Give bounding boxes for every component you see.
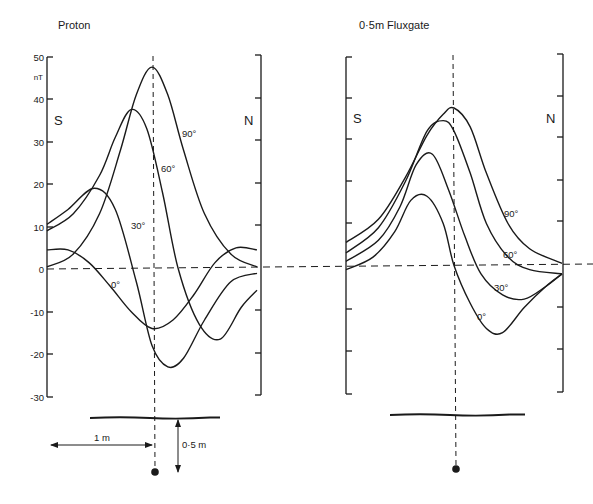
fluxgate-panel: 0·5m Fluxgate S N 90 xyxy=(346,19,563,473)
curve-label-60: 60° xyxy=(503,249,518,260)
fluxgate-ground-surface xyxy=(390,414,525,415)
tick-label: 30 xyxy=(33,137,44,148)
figure-canvas: Proton 50 nT 40 30 20 10 0 -10 -20 -30 xyxy=(0,0,593,504)
fluxgate-title: 0·5m Fluxgate xyxy=(359,19,429,31)
curve-label-60: 60° xyxy=(161,163,176,174)
proton-right-axis xyxy=(255,55,261,395)
tick-label: -30 xyxy=(30,392,44,403)
curve-30deg xyxy=(47,188,257,367)
tick-label: -10 xyxy=(30,307,44,318)
curve-label-0: 0° xyxy=(477,311,486,322)
north-label: N xyxy=(244,113,253,128)
proton-curves xyxy=(47,67,257,367)
fluxgate-source-marker xyxy=(452,465,460,473)
proton-y-tick-labels: 50 nT 40 30 20 10 0 -10 -20 -30 xyxy=(30,52,44,403)
tick-label: 20 xyxy=(33,179,44,190)
south-label: S xyxy=(353,111,362,126)
curve-label-90: 90° xyxy=(504,208,519,219)
curve-label-30: 30° xyxy=(494,282,509,293)
tick-label: 50 xyxy=(33,52,44,63)
curve-label-30: 30° xyxy=(131,220,146,231)
south-label: S xyxy=(54,113,63,128)
zero-baseline xyxy=(47,264,593,269)
fluxgate-centre-line xyxy=(453,55,456,466)
tick-label: 40 xyxy=(33,94,44,105)
tick-label: -20 xyxy=(30,349,44,360)
curve-60deg xyxy=(47,109,257,339)
proton-panel: Proton 50 nT 40 30 20 10 0 -10 -20 -30 xyxy=(30,19,261,476)
proton-source-marker xyxy=(151,468,159,476)
curve-60deg xyxy=(346,121,562,274)
fluxgate-right-axis xyxy=(557,54,563,392)
proton-y-axis xyxy=(47,57,53,397)
proton-ground-surface xyxy=(90,417,220,418)
proton-title: Proton xyxy=(58,19,90,31)
curve-label-0: 0° xyxy=(111,279,120,290)
unit-label: nT xyxy=(34,73,43,82)
tick-label: 10 xyxy=(33,222,44,233)
tick-label: 0 xyxy=(39,264,44,275)
proton-centre-line xyxy=(153,56,155,470)
north-label: N xyxy=(546,111,555,126)
fluxgate-left-axis xyxy=(346,57,352,394)
vertical-dimension-label: 0·5 m xyxy=(182,439,206,450)
curve-90deg xyxy=(47,67,257,267)
horizontal-dimension-label: 1 m xyxy=(94,432,110,443)
curve-label-90: 90° xyxy=(182,128,197,139)
